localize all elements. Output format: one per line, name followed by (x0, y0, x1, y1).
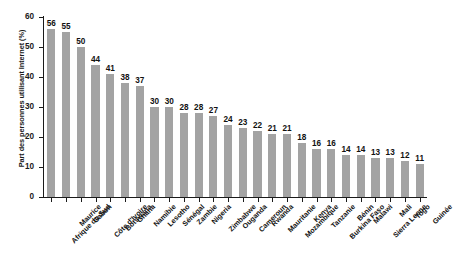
y-axis-tick-label: 0 (0, 193, 34, 201)
x-axis-tick (302, 198, 303, 202)
y-axis-tick (39, 167, 43, 168)
bar-value-label: 27 (201, 106, 225, 115)
x-axis-category-label: Guinée (431, 203, 454, 226)
x-axis-tick (169, 198, 170, 202)
bar-value-label: 11 (408, 154, 432, 163)
x-axis-tick (154, 198, 155, 202)
bar (121, 83, 129, 197)
y-axis-tick (39, 47, 43, 48)
bar-value-label: 37 (128, 76, 152, 85)
bar-value-label: 55 (54, 22, 78, 31)
y-axis-tick-label: 40 (0, 73, 34, 81)
x-axis-tick (110, 198, 111, 202)
x-axis-tick (81, 198, 82, 202)
y-axis-tick-label: 30 (0, 103, 34, 111)
y-axis-tick (39, 77, 43, 78)
y-axis-tick (39, 17, 43, 18)
bar (283, 134, 291, 197)
x-axis-tick (331, 198, 332, 202)
bar (165, 107, 173, 197)
bar (357, 155, 365, 197)
bar (416, 164, 424, 197)
x-axis-tick (405, 198, 406, 202)
x-axis-line (43, 197, 427, 198)
bar (401, 161, 409, 197)
x-axis-tick (390, 198, 391, 202)
x-axis-tick (213, 198, 214, 202)
bar (298, 143, 306, 197)
bar (62, 32, 70, 197)
bar (327, 149, 335, 197)
bar (371, 158, 379, 197)
y-axis-tick (39, 197, 43, 198)
bar-value-label: 21 (275, 124, 299, 133)
x-axis-tick (51, 198, 52, 202)
y-axis-tick-label: 10 (0, 163, 34, 171)
bar (224, 125, 232, 197)
bar (77, 47, 85, 197)
bar-value-label: 41 (98, 64, 122, 73)
bar (106, 74, 114, 197)
y-axis-tick (39, 107, 43, 108)
x-axis-tick (375, 198, 376, 202)
bar (312, 149, 320, 197)
x-axis-tick (420, 198, 421, 202)
bar (91, 65, 99, 197)
bar-value-label: 44 (84, 55, 108, 64)
bar (180, 113, 188, 197)
x-axis-tick (140, 198, 141, 202)
bar (253, 131, 261, 197)
x-axis-tick (258, 198, 259, 202)
y-axis-tick (39, 137, 43, 138)
bar (150, 107, 158, 197)
y-axis-tick-label: 60 (0, 13, 34, 21)
x-axis-tick (243, 198, 244, 202)
bar (47, 29, 55, 197)
x-axis-tick (125, 198, 126, 202)
y-axis-tick-label: 20 (0, 133, 34, 141)
x-axis-tick (346, 198, 347, 202)
bar-value-label: 50 (69, 37, 93, 46)
x-axis-tick (361, 198, 362, 202)
bar (195, 113, 203, 197)
bar (209, 116, 217, 197)
x-axis-tick (272, 198, 273, 202)
plot-area: 5655504441383730302828272423222121181616… (44, 17, 427, 197)
bar (268, 134, 276, 197)
x-axis-tick (228, 198, 229, 202)
bar (386, 158, 394, 197)
y-axis-tick-label: 50 (0, 43, 34, 51)
bar (342, 155, 350, 197)
x-axis-tick (66, 198, 67, 202)
x-axis-tick (317, 198, 318, 202)
bar (239, 128, 247, 197)
